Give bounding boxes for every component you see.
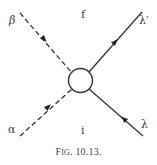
alpha-arrow-icon [44, 102, 53, 111]
beta-arrow-icon [40, 35, 49, 44]
beta-line [20, 13, 72, 73]
feynman-diagram: β α λ′ λ f i FIG. 10.13. [0, 0, 157, 165]
caption-prefix-small: IG [61, 148, 70, 157]
lambda-label: λ [141, 119, 148, 130]
diagram-canvas [0, 0, 157, 165]
beta-label: β [9, 15, 15, 26]
alpha-line [20, 89, 72, 136]
lambda-prime-label: λ′ [139, 15, 148, 26]
alpha-label: α [8, 124, 15, 135]
lambda-line [89, 89, 143, 136]
caption-number: . 10.13. [70, 146, 102, 157]
figure-caption: FIG. 10.13. [0, 146, 157, 157]
final-state-label: f [81, 9, 85, 20]
vertex-circle [69, 69, 93, 93]
initial-state-label: i [81, 125, 85, 136]
